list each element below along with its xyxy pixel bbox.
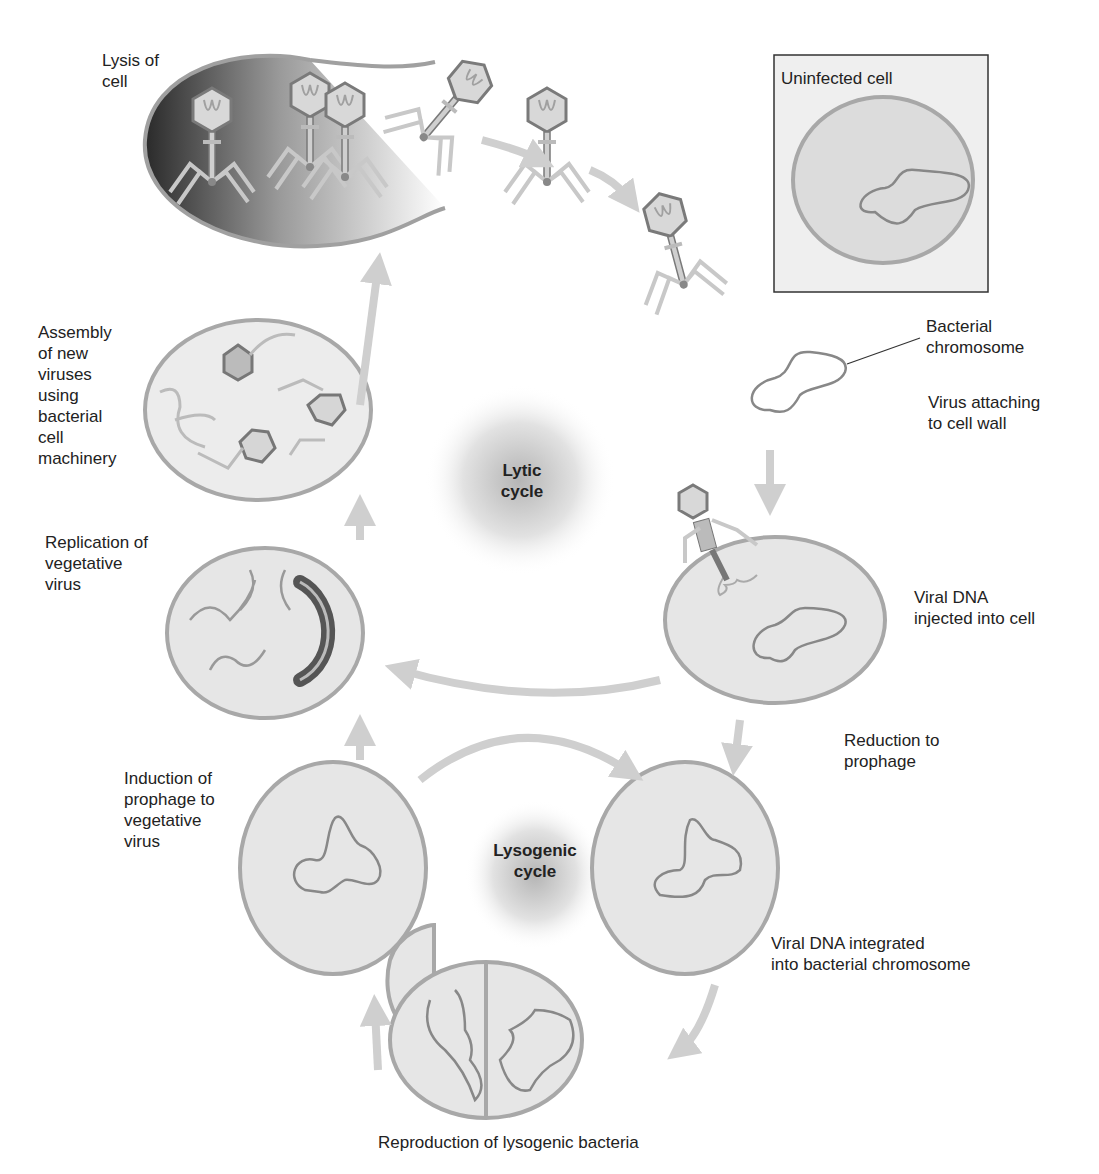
label-virus-attaching: Virus attaching to cell wall [928,392,1040,434]
uninfected-cell-box [774,55,988,292]
lysis-cell [145,38,516,246]
label-reproduction: Reproduction of lysogenic bacteria [378,1132,639,1153]
chromosome-leader-line [847,338,920,364]
label-lysogenic-cycle: Lysogenic cycle [485,840,585,882]
free-chromosome [752,352,846,412]
label-uninfected-cell: Uninfected cell [781,68,893,89]
label-bacterial-chromosome: Bacterial chromosome [926,316,1024,358]
label-assembly: Assembly of new viruses using bacterial … [38,322,116,469]
phage-free-2 [619,183,730,317]
label-viral-dna-injected: Viral DNA injected into cell [914,587,1035,629]
label-induction: Induction of prophage to vegetative viru… [124,768,215,852]
dividing-cells [387,925,582,1118]
phage-free-1 [505,88,589,204]
replication-cell [167,548,363,718]
label-reduction-to-prophage: Reduction to prophage [844,730,939,772]
label-lysis: Lysis of cell [102,50,159,92]
label-lytic-cycle: Lytic cycle [482,460,562,502]
label-viral-dna-integrated: Viral DNA integrated into bacterial chro… [771,933,970,975]
injected-cell [665,485,885,703]
integrated-cell [592,762,778,974]
label-replication: Replication of vegetative virus [45,532,148,595]
assembly-cell [145,320,371,500]
